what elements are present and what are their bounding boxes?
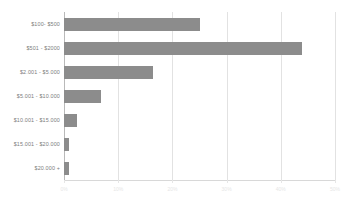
y-axis-category-labels: $100- $500$501 - $2000$2.001 - $5.000$5.… <box>0 12 60 180</box>
gridline-50 <box>335 12 336 180</box>
x-tick-label: 0% <box>60 186 67 192</box>
x-tick-label: 30% <box>222 186 232 192</box>
x-tick-label: 20% <box>167 186 177 192</box>
x-tick-mark <box>64 180 65 183</box>
bar[interactable] <box>64 138 69 151</box>
category-label: $15.001 - $20.000 <box>0 141 60 147</box>
x-tick-label: 10% <box>113 186 123 192</box>
category-label: $10.001 - $15.000 <box>0 117 60 123</box>
bar[interactable] <box>64 162 69 175</box>
bar[interactable] <box>64 66 153 79</box>
x-tick-label: 40% <box>276 186 286 192</box>
category-label: $20.000 + <box>0 165 60 171</box>
category-label: $2.001 - $5.000 <box>0 69 60 75</box>
bar[interactable] <box>64 114 77 127</box>
category-label: $501 - $2000 <box>0 45 60 51</box>
horizontal-bar-chart: $100- $500$501 - $2000$2.001 - $5.000$5.… <box>0 0 344 203</box>
x-tick-mark <box>118 180 119 183</box>
bars-layer <box>64 12 335 180</box>
x-tick-mark <box>335 180 336 183</box>
bar-band <box>64 132 335 156</box>
x-axis-line <box>64 180 335 181</box>
x-tick-mark <box>281 180 282 183</box>
bar[interactable] <box>64 18 200 31</box>
x-axis-tick-labels: 0%10%20%30%40%50% <box>64 186 335 196</box>
bar[interactable] <box>64 90 101 103</box>
bar-band <box>64 108 335 132</box>
x-tick-mark <box>227 180 228 183</box>
category-label: $5.001 - $10.000 <box>0 93 60 99</box>
x-tick-label: 50% <box>330 186 340 192</box>
bar[interactable] <box>64 42 302 55</box>
bar-band <box>64 60 335 84</box>
x-tick-mark <box>172 180 173 183</box>
bar-band <box>64 12 335 36</box>
category-label: $100- $500 <box>0 21 60 27</box>
bar-band <box>64 36 335 60</box>
bar-band <box>64 84 335 108</box>
bar-band <box>64 156 335 180</box>
plot-area <box>64 12 335 180</box>
